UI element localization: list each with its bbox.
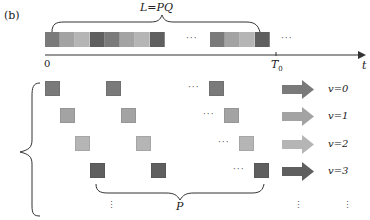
row-label-v3: v=3 [328, 165, 348, 176]
axis-end-label: t [362, 59, 366, 72]
row-label-v1: v=1 [328, 110, 348, 121]
arrow-v1 [282, 107, 314, 126]
slot-v2 [75, 136, 90, 151]
vertical-ellipsis-squares: ⋮ [107, 203, 113, 207]
slot-v3 [254, 163, 269, 178]
slot-v0 [209, 81, 224, 96]
top-brace-label: L=PQ [140, 1, 173, 14]
arrow-v3 [282, 162, 314, 181]
slot-v0 [45, 81, 60, 96]
cell-v2 [75, 32, 90, 47]
axis-t0-label: T0 [271, 58, 283, 73]
cell-v1 [60, 32, 75, 47]
cell-v3 [150, 32, 165, 47]
cell-v1 [120, 32, 135, 47]
arrow-v2 [282, 135, 314, 154]
row-ellipsis: ··· [218, 137, 230, 147]
slot-v3 [90, 163, 105, 178]
arrow-v0 [282, 80, 314, 99]
cell-v2 [135, 32, 150, 47]
vertical-ellipsis-labels: ⋮ [343, 203, 349, 207]
vertical-ellipsis-arrows: ⋮ [294, 203, 300, 207]
top-ellipsis-1: ··· [186, 33, 198, 43]
row-ellipsis: ··· [188, 82, 200, 92]
slot-v3 [151, 163, 166, 178]
row-ellipsis: ··· [233, 164, 245, 174]
slot-v1 [60, 108, 75, 123]
cell-v3 [90, 32, 105, 47]
axis-origin-label: 0 [44, 58, 50, 69]
slot-v1 [121, 108, 136, 123]
row-ellipsis: ··· [203, 109, 215, 119]
cell-v0 [45, 32, 60, 47]
row-label-v2: v=2 [328, 138, 348, 149]
cell-v1 [225, 32, 240, 47]
slot-v1 [224, 108, 239, 123]
cell-v2 [240, 32, 255, 47]
cell-v0 [210, 32, 225, 47]
bottom-brace-label: P [176, 200, 183, 213]
slot-v2 [239, 136, 254, 151]
row-label-v0: v=0 [328, 83, 348, 94]
cell-v0 [105, 32, 120, 47]
cell-v3 [255, 32, 270, 47]
slot-v2 [136, 136, 151, 151]
top-ellipsis-2: ··· [281, 33, 293, 43]
slot-v0 [106, 81, 121, 96]
